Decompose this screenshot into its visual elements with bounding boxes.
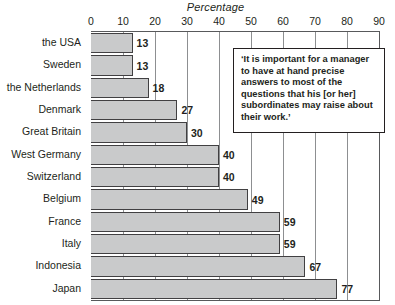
bar-row: 77 — [91, 278, 379, 300]
x-tick-label-20: 20 — [149, 15, 161, 27]
bar — [91, 212, 280, 232]
bar-row: 40 — [91, 166, 379, 188]
x-tick-label-0: 0 — [88, 15, 94, 27]
bar-row: 59 — [91, 211, 379, 233]
x-tick-label-90: 90 — [373, 15, 385, 27]
category-label: Belgium — [0, 187, 88, 209]
bar-row: 67 — [91, 255, 379, 277]
bar-value-label: 77 — [341, 283, 353, 295]
bar — [91, 234, 280, 254]
category-label: Japan — [0, 277, 88, 299]
bar — [91, 100, 177, 120]
bar — [91, 55, 133, 75]
x-tick-label-30: 30 — [181, 15, 193, 27]
x-tick-label-40: 40 — [213, 15, 225, 27]
x-tick-label-50: 50 — [245, 15, 257, 27]
bar-value-label: 67 — [309, 261, 321, 273]
category-label: Switzerland — [0, 165, 88, 187]
x-tick-label-80: 80 — [341, 15, 353, 27]
category-label: the Netherlands — [0, 76, 88, 98]
category-labels: the USASwedenthe NetherlandsDenmarkGreat… — [0, 31, 88, 299]
x-axis-tick-labels: 0102030405060708090 — [0, 15, 395, 29]
bar-row: 59 — [91, 233, 379, 255]
bar — [91, 122, 187, 142]
bar-value-label: 59 — [284, 216, 296, 228]
bar-value-label: 27 — [181, 104, 193, 116]
bar — [91, 145, 219, 165]
category-label: Denmark — [0, 98, 88, 120]
bar-row: 49 — [91, 188, 379, 210]
bar — [91, 189, 248, 209]
category-label: Great Britain — [0, 120, 88, 142]
bar — [91, 33, 133, 53]
bar — [91, 256, 305, 276]
category-label: West Germany — [0, 143, 88, 165]
bar-value-label: 40 — [223, 171, 235, 183]
x-tick-label-60: 60 — [277, 15, 289, 27]
x-tick-label-10: 10 — [117, 15, 129, 27]
category-label: the USA — [0, 31, 88, 53]
bar — [91, 78, 149, 98]
category-label: Indonesia — [0, 254, 88, 276]
bar-value-label: 13 — [137, 37, 149, 49]
category-label: Sweden — [0, 53, 88, 75]
category-label: France — [0, 210, 88, 232]
x-axis-title: Percentage — [148, 1, 283, 13]
bar-value-label: 40 — [223, 149, 235, 161]
bar — [91, 167, 219, 187]
annotation-callout: ‘It is important for a manager to have a… — [233, 48, 385, 133]
x-tick-label-70: 70 — [309, 15, 321, 27]
bar — [91, 279, 337, 299]
category-label: Italy — [0, 232, 88, 254]
bar-value-label: 18 — [153, 82, 165, 94]
bar-chart: Percentage 0102030405060708090 the USASw… — [0, 0, 395, 305]
bar-value-label: 30 — [191, 127, 203, 139]
bar-value-label: 59 — [284, 238, 296, 250]
bar-value-label: 49 — [252, 194, 264, 206]
bar-value-label: 13 — [137, 60, 149, 72]
bar-row: 40 — [91, 144, 379, 166]
